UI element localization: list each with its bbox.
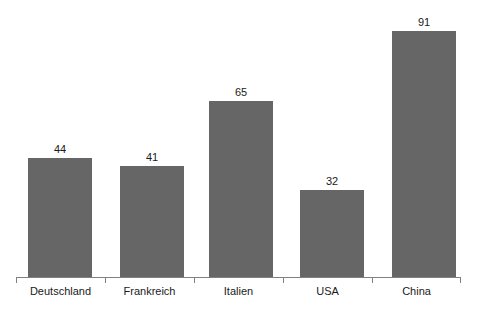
- x-axis-category-label: Frankreich: [105, 285, 194, 298]
- bar: [392, 31, 456, 277]
- bar: [209, 101, 273, 277]
- x-axis-tick: [194, 277, 195, 283]
- x-axis-tick: [460, 277, 461, 283]
- bar-value-label: 91: [392, 17, 456, 28]
- x-axis-tick: [372, 277, 373, 283]
- bar-value-label: 65: [209, 87, 273, 98]
- bar-group: 44: [28, 145, 92, 277]
- x-axis-category-label: Italien: [194, 285, 283, 298]
- x-axis-line: [16, 277, 460, 278]
- x-axis-category-label: USA: [283, 285, 372, 298]
- bar-group: 91: [392, 18, 456, 277]
- x-axis-tick: [105, 277, 106, 283]
- bar-chart: 44 41 65 32 91 Deutschland Fran: [0, 0, 477, 310]
- bar-value-label: 44: [28, 144, 92, 155]
- x-axis-tick: [16, 277, 17, 283]
- x-axis-category-label: Deutschland: [16, 285, 105, 298]
- bar: [120, 166, 184, 277]
- bar-value-label: 41: [120, 152, 184, 163]
- bar-value-label: 32: [300, 176, 364, 187]
- bar-group: 32: [300, 177, 364, 277]
- bar: [300, 190, 364, 277]
- x-axis-category-label: China: [372, 285, 461, 298]
- bar-group: 41: [120, 153, 184, 277]
- bar: [28, 158, 92, 277]
- plot-area: 44 41 65 32 91 Deutschland Fran: [0, 0, 477, 310]
- x-axis-tick: [283, 277, 284, 283]
- bar-group: 65: [209, 88, 273, 277]
